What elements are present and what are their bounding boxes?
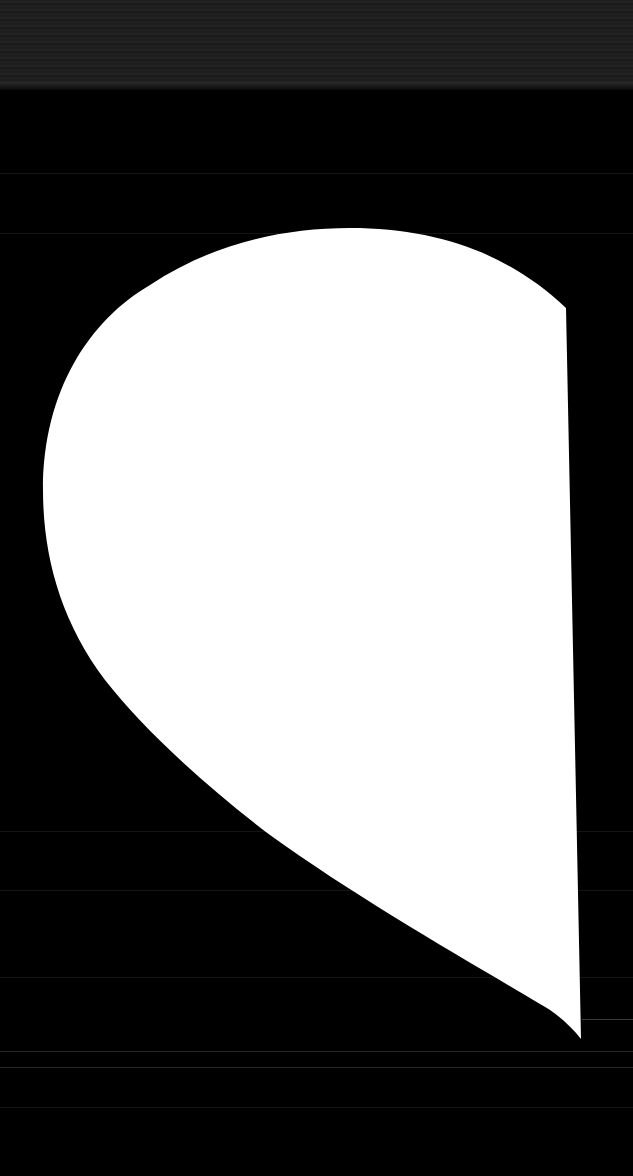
shape-canvas <box>0 0 633 1176</box>
half-heart-shape <box>43 228 581 1039</box>
